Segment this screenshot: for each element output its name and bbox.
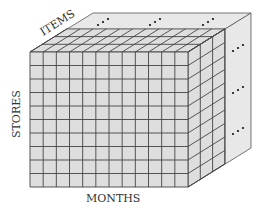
data-cube-diagram: ITEMS STORES MONTHS xyxy=(0,0,265,215)
grid-block xyxy=(30,29,225,187)
stores-axis-label: STORES xyxy=(10,90,23,138)
months-axis-label: MONTHS xyxy=(86,192,140,205)
